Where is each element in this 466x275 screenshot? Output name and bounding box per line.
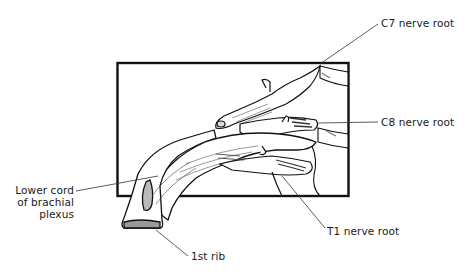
label-lower-cord-line1: Lower cord	[8, 184, 74, 196]
leader-c7	[320, 24, 378, 64]
label-first-rib: 1st rib	[191, 250, 225, 262]
leader-first-rib	[156, 230, 188, 256]
vertebral-column	[312, 66, 348, 196]
label-lower-cord-line3: plexus	[8, 208, 74, 220]
leader-c8	[318, 122, 378, 123]
label-c7-nerve-root: C7 nerve root	[381, 17, 454, 29]
label-lower-cord: Lower cord of brachial plexus	[8, 184, 74, 220]
leader-t1	[282, 176, 325, 228]
label-t1-nerve-root: T1 nerve root	[327, 225, 399, 237]
label-lower-cord-line2: of brachial	[8, 196, 74, 208]
label-c8-nerve-root: C8 nerve root	[381, 116, 454, 128]
